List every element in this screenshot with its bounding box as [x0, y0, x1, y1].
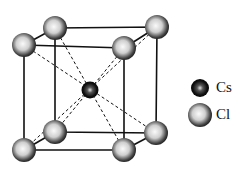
legend-label-cl: Cl — [216, 106, 230, 123]
cs-atom — [82, 82, 99, 99]
cscl-unit-cell-diagram: Cs Cl — [0, 0, 243, 177]
legend-label-cs: Cs — [216, 79, 232, 96]
unit-cell-drawing — [0, 0, 243, 177]
legend-symbols — [188, 79, 212, 127]
